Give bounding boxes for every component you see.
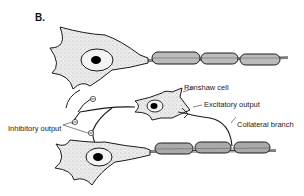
bottom-myelin-3 [234, 142, 270, 153]
top-myelin-3 [240, 54, 280, 65]
top-motor-neuron [50, 27, 288, 89]
synapse-minus-icon [88, 130, 93, 135]
bottom-myelin-2 [195, 142, 231, 153]
label-renshaw-cell: Renshaw cell [184, 84, 229, 92]
top-neuron-nucleus [91, 56, 101, 64]
collateral-branch [178, 108, 232, 146]
label-excitatory-output: Excitatory output [204, 101, 260, 109]
bottom-motor-neuron [55, 140, 276, 185]
bottom-neuron-nucleus [93, 153, 103, 161]
renshaw-circuit-diagram [0, 0, 304, 196]
renshaw-nucleus [151, 103, 158, 109]
synapse-minus-icon [90, 96, 95, 101]
synapse-minus-icon [72, 119, 77, 124]
label-collateral-branch: Collateral branch [237, 121, 294, 129]
top-myelin-2 [201, 53, 238, 64]
renshaw-cell [66, 88, 190, 145]
inhibitory-synapses [72, 96, 95, 135]
label-inhibitory-output: Inhibitory output [8, 125, 61, 133]
